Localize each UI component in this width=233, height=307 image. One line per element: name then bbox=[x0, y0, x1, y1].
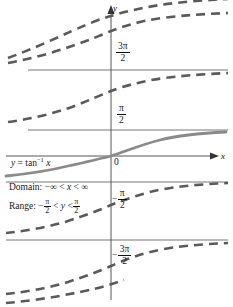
range-lower-fraction: π 2 bbox=[44, 198, 51, 216]
domain-right-bound: ∞ bbox=[81, 182, 88, 192]
fraction-numerator: 3π bbox=[118, 245, 132, 256]
domain-label: Domain: bbox=[9, 182, 42, 192]
origin-label: 0 bbox=[114, 158, 119, 168]
fraction-denominator: 2 bbox=[116, 53, 130, 63]
range-label: Range: bbox=[9, 201, 36, 211]
fraction-pi-over-2-negative: π 2 bbox=[118, 189, 127, 210]
fraction-3pi-over-2-negative: 3π 2 bbox=[118, 245, 132, 266]
fraction-denominator: 2 bbox=[118, 256, 132, 266]
fraction-3pi-over-2: 3π 2 bbox=[116, 42, 130, 63]
tick-label-pi-over-2: π 2 bbox=[117, 104, 126, 125]
range-variable: y bbox=[61, 201, 65, 211]
fraction-numerator: 3π bbox=[116, 42, 130, 53]
fraction-pi-over-2: π 2 bbox=[117, 104, 126, 125]
principal-branch-arctan bbox=[6, 132, 226, 176]
fraction-denominator: 2 bbox=[44, 207, 51, 216]
fraction-denominator: 2 bbox=[118, 200, 127, 210]
equation-argument: x bbox=[46, 158, 50, 168]
fraction-numerator: π bbox=[118, 189, 127, 200]
domain-left-bound: −∞ bbox=[45, 182, 57, 192]
domain-relation-2: < bbox=[73, 182, 78, 192]
range-annotation: Range: − π 2 < y < π 2 bbox=[9, 198, 80, 216]
range-upper-fraction: π 2 bbox=[73, 198, 80, 216]
tick-label-negative-3pi-over-2: − 3π 2 bbox=[112, 245, 131, 266]
domain-annotation: Domain: −∞ < x < ∞ bbox=[9, 183, 88, 193]
range-relation-1: < bbox=[53, 201, 58, 211]
equation-exponent: −1 bbox=[37, 156, 44, 163]
fraction-numerator: π bbox=[117, 104, 126, 115]
y-axis-label: y bbox=[113, 4, 117, 13]
fraction-denominator: 2 bbox=[73, 207, 80, 216]
x-axis-label: x bbox=[221, 152, 225, 161]
fraction-denominator: 2 bbox=[117, 115, 126, 125]
equation-label: y = tan−1 x bbox=[11, 157, 50, 169]
equation-function: tan bbox=[25, 158, 37, 168]
tick-label-negative-pi-over-2: − π 2 bbox=[112, 189, 127, 210]
tick-label-3pi-over-2: 3π 2 bbox=[116, 42, 130, 63]
domain-relation-1: < bbox=[59, 182, 64, 192]
arctangent-figure: y x 0 3π 2 π 2 − π 2 − 3π 2 y = tan−1 x bbox=[0, 0, 233, 307]
domain-variable: x bbox=[67, 182, 71, 192]
